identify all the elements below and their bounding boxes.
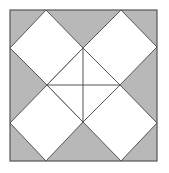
quilt-pattern-diagram [0,0,169,173]
